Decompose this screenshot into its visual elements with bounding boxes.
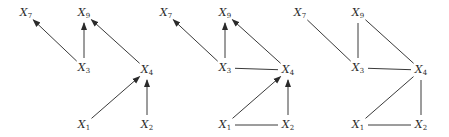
node-subscript: 3 — [227, 67, 231, 75]
node-subscript: 9 — [227, 12, 231, 20]
node-variable: X — [141, 63, 149, 76]
node-label-x4: X4 — [282, 64, 294, 77]
node-subscript: 2 — [290, 124, 294, 132]
node-subscript: 3 — [360, 67, 364, 75]
node-label-x7: X7 — [294, 7, 306, 20]
node-variable: X — [219, 118, 227, 131]
undirected-edge-x4-x1 — [366, 77, 414, 119]
node-subscript: 1 — [360, 124, 364, 132]
node-label-x3: X3 — [352, 62, 364, 75]
node-label-x2: X2 — [415, 119, 427, 132]
node-variable: X — [160, 6, 168, 19]
node-variable: X — [20, 6, 28, 19]
node-subscript: 3 — [86, 67, 90, 75]
node-subscript: 7 — [28, 12, 32, 20]
undirected-edge-x3-x4 — [368, 68, 411, 69]
directed-edge-x4-x9 — [91, 20, 139, 64]
node-variable: X — [219, 61, 227, 74]
node-label-x4: X4 — [141, 64, 153, 77]
node-variable: X — [78, 6, 86, 19]
node-variable: X — [141, 118, 149, 131]
node-subscript: 2 — [149, 124, 153, 132]
node-subscript: 4 — [423, 69, 427, 77]
node-variable: X — [415, 63, 423, 76]
undirected-edge-x7-x3 — [307, 20, 350, 61]
node-label-x9: X9 — [78, 7, 90, 20]
node-variable: X — [282, 118, 290, 131]
node-label-x9: X9 — [219, 7, 231, 20]
node-label-x3: X3 — [78, 62, 90, 75]
undirected-edge-x3-x4 — [235, 68, 278, 69]
node-label-x4: X4 — [415, 64, 427, 77]
directed-edge-x1-x4 — [92, 77, 140, 119]
directed-edge-x1-x4 — [233, 77, 281, 119]
node-variable: X — [352, 61, 360, 74]
node-label-x9: X9 — [352, 7, 364, 20]
node-variable: X — [78, 61, 86, 74]
node-subscript: 1 — [86, 124, 90, 132]
node-label-x1: X1 — [352, 119, 364, 132]
directed-edge-x3-x7 — [173, 20, 217, 61]
node-variable: X — [294, 6, 302, 19]
diagram-canvas: X7X9X3X4X1X2X7X9X3X4X1X2X7X9X3X4X1X2 — [0, 0, 449, 137]
node-label-x7: X7 — [20, 7, 32, 20]
node-subscript: 7 — [302, 12, 306, 20]
directed-edge-x3-x7 — [33, 20, 76, 61]
node-variable: X — [219, 6, 227, 19]
node-subscript: 4 — [290, 69, 294, 77]
directed-edge-x4-x9 — [232, 20, 280, 64]
node-variable: X — [78, 118, 86, 131]
node-label-x3: X3 — [219, 62, 231, 75]
node-subscript: 9 — [360, 12, 364, 20]
node-subscript: 9 — [86, 12, 90, 20]
node-label-x2: X2 — [141, 119, 153, 132]
node-subscript: 4 — [149, 69, 153, 77]
undirected-edge-x9-x4 — [365, 20, 413, 64]
node-label-x2: X2 — [282, 119, 294, 132]
node-label-x1: X1 — [219, 119, 231, 132]
node-variable: X — [352, 6, 360, 19]
node-variable: X — [352, 118, 360, 131]
node-label-x7: X7 — [160, 7, 172, 20]
node-label-x1: X1 — [78, 119, 90, 132]
node-variable: X — [282, 63, 290, 76]
node-variable: X — [415, 118, 423, 131]
node-subscript: 7 — [168, 12, 172, 20]
node-subscript: 1 — [227, 124, 231, 132]
node-subscript: 2 — [423, 124, 427, 132]
